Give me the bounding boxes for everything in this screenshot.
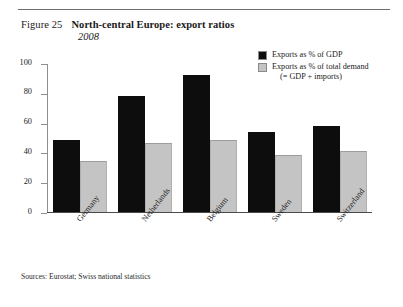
x-label-cell-germany: Germany (48, 216, 113, 276)
figure-sources: Sources: Eurostat; Swiss national statis… (21, 272, 151, 281)
y-tick-label-20: 20 (24, 177, 32, 186)
figure-number: Figure 25 (21, 19, 62, 30)
bar-group-germany (48, 64, 113, 212)
y-tick-20: 20 (41, 183, 47, 184)
bar-groups (48, 64, 372, 212)
x-label-cell-belgium: Belgium (178, 216, 243, 276)
y-tick-label-0: 0 (28, 207, 32, 216)
y-tick-label-100: 100 (20, 58, 32, 67)
bar-group-sweden (242, 64, 307, 212)
x-label-cell-sweden: Sweden (243, 216, 308, 276)
legend-item-gdp: Exports as % of GDP (258, 50, 369, 61)
bar-sweden-series-1 (248, 132, 275, 212)
y-tick-label-80: 80 (24, 87, 32, 96)
y-tick-80: 80 (41, 94, 47, 95)
bar-germany-series-1 (53, 140, 80, 212)
legend-label-gdp-wrap: Exports as % of GDP (272, 50, 343, 61)
plot-area: 020406080100 (47, 64, 372, 213)
x-label-cell-netherlands: Netherlands (113, 216, 178, 276)
figure-title-line: Figure 25 North-central Europe: export r… (21, 19, 381, 30)
bar-group-belgium (178, 64, 243, 212)
y-tick-60: 60 (41, 124, 47, 125)
y-tick-100: 100 (41, 64, 47, 65)
x-label-cell-switzerland: Switzerland (308, 216, 373, 276)
figure-container: Figure 25 North-central Europe: export r… (0, 0, 403, 307)
bar-switzerland-series-1 (313, 126, 340, 212)
y-tick-label-60: 60 (24, 117, 32, 126)
x-axis-category-labels: GermanyNetherlandsBelgiumSwedenSwitzerla… (48, 216, 373, 276)
legend-label-gdp: Exports as % of GDP (272, 50, 343, 59)
figure-header: Figure 25 North-central Europe: export r… (21, 19, 381, 42)
figure-subtitle: 2008 (78, 31, 381, 42)
y-tick-40: 40 (41, 153, 47, 154)
y-tick-0: 0 (41, 213, 47, 214)
legend-swatch-gdp (258, 51, 267, 60)
top-divider (18, 9, 390, 10)
bar-netherlands-series-1 (118, 96, 145, 212)
bar-belgium-series-1 (183, 75, 210, 212)
page-title: North-central Europe: export ratios (71, 19, 234, 30)
y-tick-label-40: 40 (24, 147, 32, 156)
